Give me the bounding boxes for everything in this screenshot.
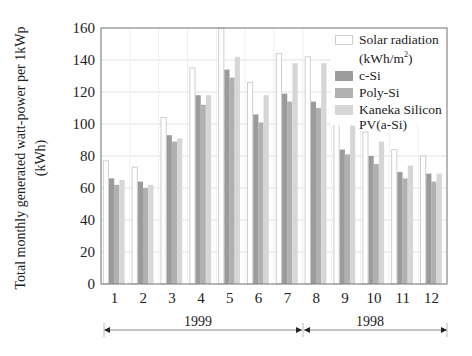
bar-c-si — [426, 174, 431, 284]
bar-poly-si — [431, 182, 436, 284]
legend-label: c-Si — [359, 68, 381, 83]
x-tick-label: 3 — [168, 290, 176, 306]
bar-solar — [247, 82, 252, 284]
bar-kaneka — [408, 166, 413, 284]
period-label-1998: 1998 — [356, 314, 384, 330]
y-axis-label-line2: (kWh) — [31, 8, 51, 308]
period-arrows — [104, 323, 447, 337]
bar-c-si — [253, 114, 258, 284]
bar-poly-si — [287, 102, 292, 284]
bar-kaneka — [350, 126, 355, 284]
x-tick-label: 9 — [341, 290, 349, 306]
bar-c-si — [397, 172, 402, 284]
x-tick-label: 4 — [197, 290, 205, 306]
y-tick-label: 60 — [80, 180, 95, 196]
bar-solar — [219, 28, 224, 284]
bar-solar — [305, 57, 310, 284]
legend-item-poly-si: Poly-Si — [335, 85, 400, 100]
bar-kaneka — [292, 63, 297, 284]
bar-solar — [161, 118, 166, 284]
legend: Solar radiation (kWh/m2) c-Si Poly-Si Ka… — [331, 29, 446, 125]
arrowhead-left-icon — [104, 327, 110, 333]
bar-poly-si — [316, 108, 321, 284]
bar-c-si — [109, 178, 114, 284]
y-tick-label: 140 — [73, 52, 96, 68]
bar-poly-si — [201, 105, 206, 284]
y-tick-label: 80 — [80, 148, 95, 164]
bar-poly-si — [229, 78, 234, 284]
arrowhead-right-icon — [441, 327, 447, 333]
bar-kaneka — [321, 63, 326, 284]
period-label-1999: 1999 — [184, 314, 212, 330]
x-tick-label: 12 — [424, 290, 439, 306]
bar-solar — [132, 167, 137, 284]
legend-label: Poly-Si — [359, 85, 400, 100]
legend-item-solar-radiation: Solar radiation (kWh/m2) — [335, 32, 439, 66]
bar-kaneka — [379, 142, 384, 284]
bar-c-si — [138, 182, 143, 284]
legend-label: Solar radiation — [359, 32, 439, 47]
bar-kaneka — [148, 185, 153, 284]
bar-poly-si — [143, 188, 148, 284]
arrowhead-left-icon — [304, 327, 310, 333]
bar-poly-si — [345, 154, 350, 284]
legend-item-kaneka: Kaneka Silicon PV(a-Si) — [335, 102, 442, 132]
bar-solar — [103, 161, 108, 284]
y-tick-label: 120 — [73, 84, 96, 100]
y-axis-label: Total monthly generated watt-power per 1… — [8, 18, 54, 298]
bar-kaneka — [264, 95, 269, 284]
x-tick-label: 11 — [396, 290, 410, 306]
bar-c-si — [167, 135, 172, 284]
bar-c-si — [369, 156, 374, 284]
bar-poly-si — [402, 178, 407, 284]
arrowhead-right-icon — [296, 327, 302, 333]
y-axis-label-line1: Total monthly generated watt-power per 1… — [11, 8, 31, 308]
x-tick-label: 6 — [255, 290, 263, 306]
legend-swatch-c-si — [335, 71, 353, 81]
x-tick-label: 7 — [284, 290, 292, 306]
y-axis-ticks: 020406080100120140160 — [73, 20, 96, 292]
bar-solar — [392, 150, 397, 284]
bar-kaneka — [119, 180, 124, 284]
legend-swatch-kaneka — [335, 105, 353, 115]
x-tick-label: 1 — [111, 290, 119, 306]
bar-c-si — [196, 95, 201, 284]
legend-item-c-si: c-Si — [335, 68, 381, 83]
bar-kaneka — [235, 57, 240, 284]
bar-poly-si — [172, 142, 177, 284]
legend-label-unit: (kWh/m2) — [359, 47, 439, 66]
x-tick-label: 5 — [226, 290, 234, 306]
bar-kaneka — [206, 95, 211, 284]
bar-poly-si — [374, 164, 379, 284]
bar-solar — [334, 121, 339, 284]
x-tick-label: 2 — [140, 290, 148, 306]
x-axis-ticks: 123456789101112 — [111, 290, 439, 306]
bar-c-si — [311, 102, 316, 284]
bar-poly-si — [114, 185, 119, 284]
y-tick-label: 20 — [80, 244, 95, 260]
x-tick-label: 8 — [313, 290, 321, 306]
y-tick-label: 40 — [80, 212, 95, 228]
legend-label: PV(a-Si) — [359, 117, 442, 132]
bar-c-si — [224, 70, 229, 284]
bar-solar — [276, 54, 281, 284]
y-tick-label: 0 — [88, 276, 96, 292]
legend-label: Kaneka Silicon — [359, 102, 442, 117]
bar-solar — [420, 156, 425, 284]
bar-kaneka — [437, 174, 442, 284]
legend-swatch-solar — [335, 35, 353, 45]
bar-solar — [363, 132, 368, 284]
bar-c-si — [282, 94, 287, 284]
y-tick-label: 160 — [73, 20, 96, 36]
y-tick-label: 100 — [73, 116, 96, 132]
bar-poly-si — [258, 122, 263, 284]
bar-c-si — [340, 150, 345, 284]
bar-solar — [190, 68, 195, 284]
x-tick-label: 10 — [366, 290, 381, 306]
bar-kaneka — [177, 138, 182, 284]
legend-swatch-poly-si — [335, 88, 353, 98]
